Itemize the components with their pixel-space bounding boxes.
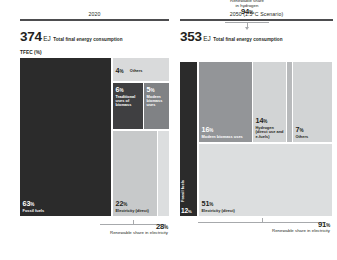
cell-electricity-direct-2050-name: Electricity (direct) xyxy=(202,209,235,213)
cell-modern-biomass-2020: 5% Modern biomass uses xyxy=(144,83,169,129)
cell-filler-2020 xyxy=(158,131,169,216)
tfec-axis-label: TFEC (%) xyxy=(20,50,42,55)
percent-sign: % xyxy=(209,128,213,133)
cell-hydrogen-2050-label: 14% Hydrogen (direct use and e-fuels) xyxy=(256,117,287,139)
cell-modern-biomass-2050-label: 16% Modern biomass uses xyxy=(202,126,243,139)
cell-traditional-biomass-2020-pct: 6% xyxy=(116,86,144,94)
panel-2050-total-value: 353 xyxy=(180,29,202,44)
cell-electricity-direct-2050-label: 51% Electricity (direct) xyxy=(202,200,235,213)
panel-2050-total-desc: Total final energy consumption xyxy=(213,37,282,42)
percent-sign: % xyxy=(123,202,127,207)
cell-modern-biomass-2050: 16% Modern biomass uses xyxy=(199,62,252,142)
cell-others-2050: 7% Others xyxy=(293,62,332,142)
percent-sign: % xyxy=(249,10,253,15)
renewable-hydrogen-value: 94% xyxy=(205,9,289,15)
panel-2020-total-unit: EJ xyxy=(43,35,51,42)
cell-fossil-fuels-2020-pct: 63% xyxy=(23,200,45,208)
cell-fossil-fuels-2050-name: Fossil fuels xyxy=(180,180,197,202)
renewable-hydrogen-callout: Renewable share in hydrogen 94% xyxy=(205,0,289,15)
cell-others-2050-pct: 7% xyxy=(296,126,309,134)
cell-fossil-fuels-2020-name: Fossil fuels xyxy=(23,209,45,213)
percent-sign: % xyxy=(263,119,267,124)
cell-electricity-direct-2020-pct: 22% xyxy=(116,200,149,208)
cell-modern-biomass-2050-pct: 16% xyxy=(202,126,243,134)
marimekko-2050: Fossil fuels 12% 16% Modern biomass uses… xyxy=(180,62,332,216)
cell-others-2050-name: Others xyxy=(296,135,309,139)
percent-sign: % xyxy=(188,209,192,214)
panel-2020-total-value: 374 xyxy=(20,29,42,44)
panel-2050-total-unit: EJ xyxy=(203,35,211,42)
cell-hydrogen-2050: 14% Hydrogen (direct use and e-fuels) xyxy=(253,62,286,142)
cell-modern-biomass-2020-pct: 5% xyxy=(147,86,170,94)
cell-fossil-fuels-2020-label: 63% Fossil fuels xyxy=(23,200,45,213)
cell-electricity-direct-2020-label: 22% Electricity (direct) xyxy=(116,200,149,213)
panel-2020-title: 2020 xyxy=(20,11,169,17)
cell-electricity-direct-2050-pct: 51% xyxy=(202,200,235,208)
cell-others-2020-name: Others xyxy=(130,69,143,73)
cell-electricity-direct-2020-name: Electricity (direct) xyxy=(116,209,149,213)
renewable-electricity-label-2050: Renewable share in electricity xyxy=(272,228,330,233)
percent-sign: % xyxy=(326,223,330,228)
cell-traditional-biomass-2020: 6% Traditional uses of biomass xyxy=(113,83,143,129)
panel-2050-kpi: 353EJTotal final energy consumption xyxy=(180,27,283,45)
panel-2020: 2020 374EJTotal final energy consumption… xyxy=(0,0,175,260)
cell-divider-2050 xyxy=(287,62,292,142)
cell-traditional-biomass-2020-name: Traditional uses of biomass xyxy=(116,95,144,108)
renewable-electricity-label-2020: Renewable share in electricity xyxy=(110,230,168,235)
panel-2020-kpi: 374EJTotal final energy consumption xyxy=(20,27,123,45)
panel-2020-header: 2020 xyxy=(20,11,169,24)
panel-2050: 2050 (1.5°C Scenario) 353EJTotal final e… xyxy=(175,0,337,260)
hydrogen-bracket-arrow-icon xyxy=(245,27,249,30)
percent-sign: % xyxy=(150,88,154,93)
cell-electricity-direct-2020: 22% Electricity (direct) xyxy=(113,131,157,216)
percent-sign: % xyxy=(119,69,123,74)
cell-electricity-direct-2050: 51% Electricity (direct) xyxy=(199,144,332,216)
percent-sign: % xyxy=(119,88,123,93)
cell-hydrogen-2050-name: Hydrogen (direct use and e-fuels) xyxy=(256,126,287,139)
cell-traditional-biomass-2020-label: 6% Traditional uses of biomass xyxy=(116,86,144,108)
cell-others-2020: 4% Others xyxy=(113,58,169,81)
percent-sign: % xyxy=(30,202,34,207)
percent-sign: % xyxy=(299,128,303,133)
cell-fossil-fuels-2020: 63% Fossil fuels xyxy=(20,58,111,216)
panel-2050-title-rule xyxy=(180,19,333,22)
marimekko-2020: 63% Fossil fuels 4% Others 6% Traditiona… xyxy=(20,58,169,216)
renewable-electricity-callout-2050: 91% Renewable share in electricity xyxy=(235,222,330,234)
percent-sign: % xyxy=(164,225,168,230)
panel-2020-total-desc: Total final energy consumption xyxy=(53,37,122,42)
cell-modern-biomass-2020-name: Modern biomass uses xyxy=(147,95,170,108)
cell-fossil-fuels-2050-pct: 12% xyxy=(181,207,191,214)
cell-others-2020-pct: 4% xyxy=(116,67,124,75)
panel-2020-title-rule xyxy=(20,19,169,22)
cell-modern-biomass-2020-label: 5% Modern biomass uses xyxy=(147,86,170,108)
cell-others-2020-label: 4% Others xyxy=(116,61,143,79)
renewable-electricity-callout-2020: 28% Renewable share in electricity xyxy=(96,224,168,236)
cell-others-2050-label: 7% Others xyxy=(296,126,309,139)
cell-modern-biomass-2050-name: Modern biomass uses xyxy=(202,135,243,139)
cell-fossil-fuels-2050: Fossil fuels 12% xyxy=(180,62,197,216)
percent-sign: % xyxy=(209,202,213,207)
